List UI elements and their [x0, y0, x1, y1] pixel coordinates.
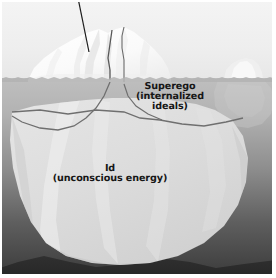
iceberg-illustration [0, 0, 276, 278]
iceberg-diagram: Superego (internalized ideals) Id (uncon… [0, 0, 276, 278]
water-surface-line [0, 77, 276, 82]
